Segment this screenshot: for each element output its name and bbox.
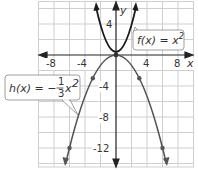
svg-text:-4: -4 (77, 58, 87, 69)
svg-text:x: x (186, 57, 194, 70)
point-marker (160, 146, 164, 150)
svg-text:f(x) = x2: f(x) = x2 (137, 32, 184, 47)
x-tick-labels: -8 -4 4 8 (44, 58, 182, 70)
point-marker (67, 146, 71, 150)
point-marker (137, 76, 141, 80)
svg-text:3: 3 (58, 88, 64, 99)
svg-text:2: 2 (72, 77, 79, 90)
vertex-point (114, 53, 119, 58)
svg-text:y: y (119, 4, 127, 17)
svg-text:-4: -4 (99, 81, 109, 92)
svg-text:h(x) = −: h(x) = − (9, 82, 57, 95)
svg-text:-8: -8 (46, 58, 56, 69)
h-label-callout: h(x) = − 1 3 x 2 (5, 75, 80, 115)
svg-text:8: 8 (174, 58, 180, 69)
svg-text:-8: -8 (99, 112, 109, 123)
svg-text:1: 1 (58, 76, 64, 87)
svg-text:-12: -12 (93, 143, 109, 154)
point-marker (91, 76, 95, 80)
svg-text:4: 4 (143, 58, 149, 69)
graph: -8 -4 4 8 4 -4 -8 -12 y x (0, 0, 198, 170)
svg-text:x: x (64, 82, 72, 95)
svg-text:4: 4 (106, 19, 112, 30)
f-label-callout: f(x) = x2 (133, 27, 184, 50)
